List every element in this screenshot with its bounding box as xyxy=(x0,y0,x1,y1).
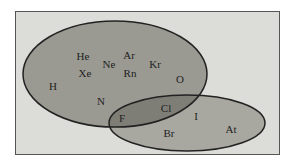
element-label-kr: Kr xyxy=(149,58,161,70)
element-label-ar: Ar xyxy=(123,49,135,61)
element-label-o: O xyxy=(176,73,184,85)
element-label-cl: Cl xyxy=(161,102,171,114)
element-label-f: F xyxy=(119,112,125,124)
element-label-he: He xyxy=(77,50,90,62)
element-label-h: H xyxy=(49,80,57,92)
element-label-rn: Rn xyxy=(124,67,137,79)
element-label-br: Br xyxy=(164,127,175,139)
element-label-i: I xyxy=(194,110,198,122)
element-label-at: At xyxy=(226,123,237,135)
venn-diagram: HeXeNeArRnKrOHNClFIBrAt xyxy=(0,0,291,166)
element-label-ne: Ne xyxy=(103,58,116,70)
element-label-xe: Xe xyxy=(79,67,92,79)
element-label-n: N xyxy=(97,95,105,107)
